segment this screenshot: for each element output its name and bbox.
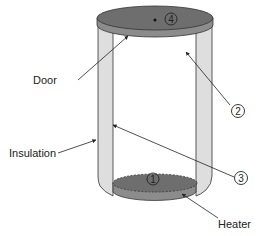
chamber-diagram: 1 4 Door Insulation Heater 2 3 (0, 0, 261, 236)
left-insulation-wall (98, 24, 113, 196)
door-label: Door (33, 74, 57, 86)
insulation-leader (58, 140, 96, 153)
heater-leader (182, 194, 218, 218)
lid-dot (154, 19, 157, 22)
marker-3-leader (113, 125, 234, 177)
marker-4-label: 4 (168, 14, 174, 25)
insulation-label: Insulation (9, 147, 56, 159)
marker-2-label: 2 (235, 106, 241, 117)
door-lid-top (97, 6, 213, 30)
marker-3-label: 3 (238, 173, 244, 184)
heater-label: Heater (218, 218, 251, 230)
marker-1-label: 1 (150, 174, 156, 185)
right-insulation-wall (196, 24, 212, 196)
